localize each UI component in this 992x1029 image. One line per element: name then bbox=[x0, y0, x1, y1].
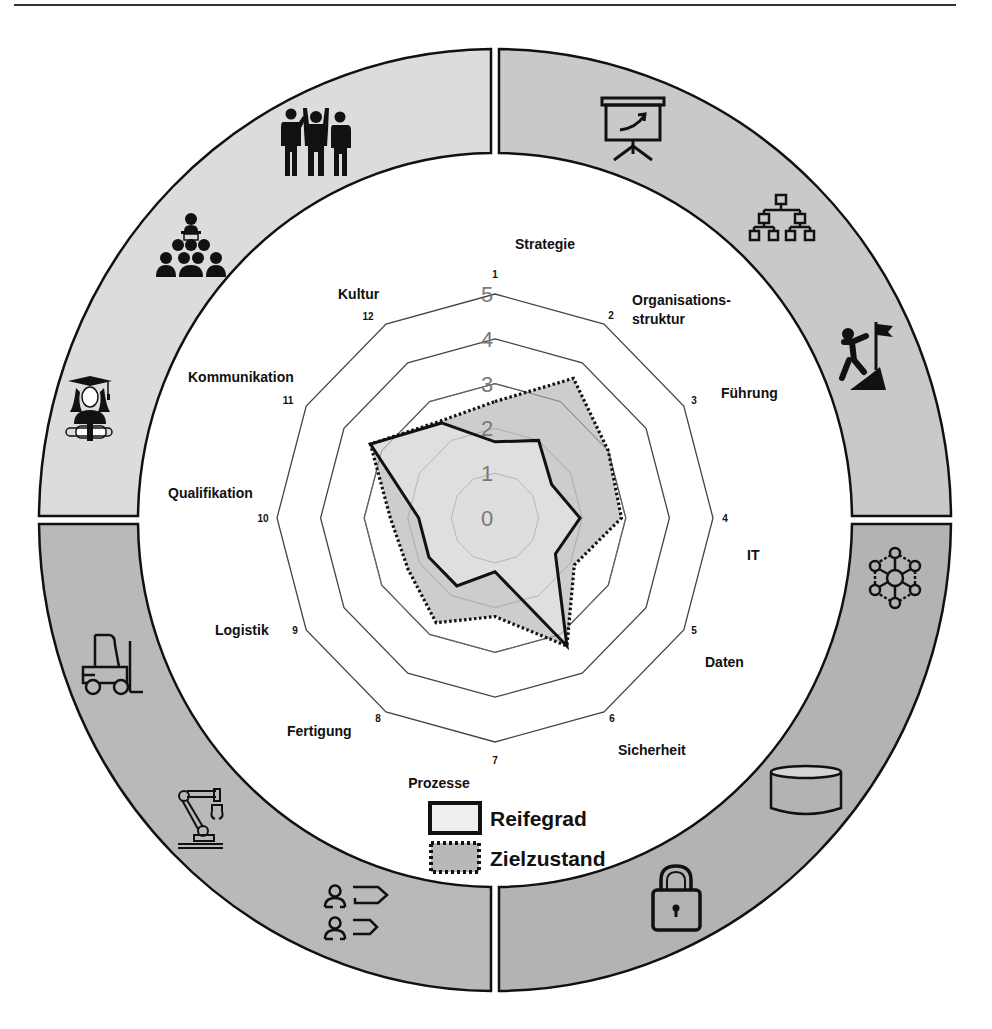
axis-label-3: Führung bbox=[721, 385, 778, 401]
legend-swatch-solid bbox=[430, 803, 480, 833]
scale-tick-4: 4 bbox=[481, 327, 493, 352]
scale-tick-0: 0 bbox=[481, 506, 493, 531]
axis-label-8: Fertigung bbox=[287, 723, 352, 739]
axis-number-1: 1 bbox=[492, 269, 498, 280]
radar-series bbox=[364, 378, 626, 652]
scale-tick-5: 5 bbox=[481, 282, 493, 307]
figure-canvas: 012345 1Strategie2Organisations-struktur… bbox=[0, 0, 992, 1029]
axis-label-2: Organisations- bbox=[632, 292, 731, 308]
scale-tick-1: 1 bbox=[481, 461, 493, 486]
legend-swatch-dotted bbox=[431, 843, 479, 872]
legend-item-zielzustand: Zielzustand bbox=[431, 843, 606, 872]
legend-label: Zielzustand bbox=[490, 847, 606, 870]
axis-label-2: struktur bbox=[632, 311, 685, 327]
axis-number-6: 6 bbox=[609, 713, 615, 724]
axis-label-9: Logistik bbox=[215, 622, 269, 638]
axis-number-12: 12 bbox=[362, 311, 374, 322]
legend-label: Reifegrad bbox=[490, 807, 587, 830]
axis-label-6: Sicherheit bbox=[618, 742, 686, 758]
axis-label-11: Kommunikation bbox=[188, 369, 294, 385]
axis-label-1: Strategie bbox=[515, 236, 575, 252]
chart-legend: Reifegrad Zielzustand bbox=[430, 803, 606, 872]
axis-number-2: 2 bbox=[608, 310, 614, 321]
axis-number-3: 3 bbox=[691, 395, 697, 406]
axis-number-7: 7 bbox=[492, 755, 498, 766]
axis-label-10: Qualifikation bbox=[168, 485, 253, 501]
axis-label-12: Kultur bbox=[338, 286, 380, 302]
axis-number-5: 5 bbox=[691, 625, 697, 636]
legend-item-reifegrad: Reifegrad bbox=[430, 803, 587, 833]
maturity-radar-figure: 012345 1Strategie2Organisations-struktur… bbox=[0, 0, 992, 1029]
axis-number-9: 9 bbox=[292, 625, 298, 636]
axis-label-7: Prozesse bbox=[408, 775, 470, 791]
axis-number-11: 11 bbox=[283, 395, 294, 406]
axis-label-5: Daten bbox=[705, 654, 744, 670]
axis-number-10: 10 bbox=[257, 513, 269, 524]
axis-label-4: IT bbox=[747, 547, 760, 563]
axis-number-8: 8 bbox=[375, 713, 381, 724]
scale-tick-2: 2 bbox=[481, 416, 493, 441]
axis-number-4: 4 bbox=[722, 513, 728, 524]
scale-tick-3: 3 bbox=[481, 372, 493, 397]
